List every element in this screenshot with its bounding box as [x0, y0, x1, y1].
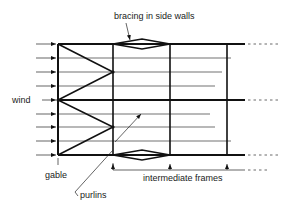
- wind-label: wind: [11, 95, 31, 105]
- bracing-node: [112, 71, 115, 74]
- wind-arrows: [36, 44, 56, 155]
- gable-label: gable: [45, 170, 67, 180]
- purlins-leader-arrow: [115, 114, 141, 142]
- bracing-label: bracing in side walls: [114, 11, 195, 21]
- bracing-node: [112, 126, 115, 129]
- purlins-label: purlins: [80, 190, 107, 200]
- intermediate-frames-label: intermediate frames: [143, 173, 223, 183]
- bracing-leader: [126, 23, 130, 40]
- braced-building-plan-diagram: bracing in side walls wind gable purlins…: [0, 0, 288, 213]
- bracing-node: [57, 99, 60, 102]
